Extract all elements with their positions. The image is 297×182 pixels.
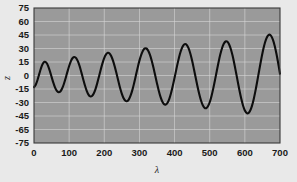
y-tick-label: 30 [18,43,29,54]
x-tick-label: 200 [96,147,112,158]
chart-container: 75604530150-15-30-45-65-75 0100200300400… [0,0,297,182]
y-tick-label: -15 [15,83,29,94]
y-axis-title: z [1,76,12,81]
y-tick-label: -75 [15,137,29,148]
x-tick-label: 500 [202,147,218,158]
x-tick-label: 100 [61,147,77,158]
x-tick-label: 600 [237,147,253,158]
y-tick-label: -45 [15,110,29,121]
y-tick-label: 75 [18,2,29,13]
x-tick-label: 300 [131,147,147,158]
y-tick-label: 0 [24,70,29,81]
x-tick-label: 400 [167,147,183,158]
x-tick-label: 0 [31,147,36,158]
y-tick-label: 60 [18,16,29,27]
x-axis-title: λ [154,164,160,175]
oscillation-chart: 75604530150-15-30-45-65-75 0100200300400… [0,0,297,182]
y-tick-label: 15 [18,56,29,67]
y-tick-label: 45 [18,29,29,40]
y-tick-label: -30 [15,97,29,108]
x-tick-label: 700 [272,147,288,158]
y-tick-label: -65 [15,124,29,135]
